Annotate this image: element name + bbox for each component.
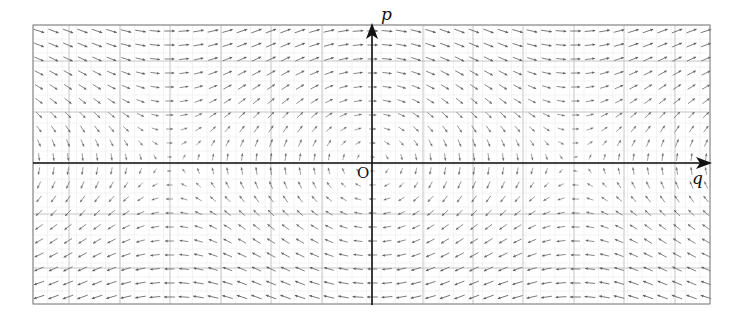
phase-portrait: [0, 0, 740, 327]
q-axis-label: q: [692, 170, 703, 187]
origin-label: O: [357, 166, 369, 181]
axes: [33, 23, 712, 305]
p-axis-label: p: [381, 6, 392, 23]
